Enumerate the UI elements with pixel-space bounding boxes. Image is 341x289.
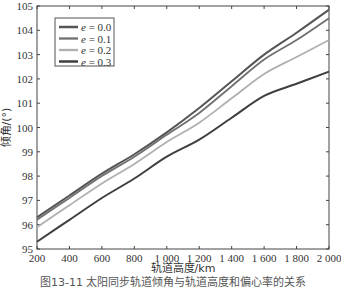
x-tick-label: 1 600 — [252, 252, 277, 264]
y-tick-label: 102 — [17, 73, 34, 85]
y-tick-label: 99 — [22, 146, 34, 158]
x-tick-label: 400 — [61, 252, 78, 264]
x-tick-label: 1 800 — [284, 252, 309, 264]
x-tick-label: 200 — [29, 252, 46, 264]
legend: e = 0.0e = 0.1e = 0.2e = 0.3 — [55, 18, 114, 68]
y-tick-label: 105 — [17, 0, 34, 12]
y-tick-label: 101 — [17, 97, 34, 109]
legend-label: e = 0.1 — [81, 33, 111, 45]
y-tick-label: 103 — [17, 49, 34, 61]
axes: 9596979899100101102103104105200400600800… — [0, 0, 341, 275]
y-tick-label: 104 — [17, 24, 34, 36]
y-axis-title: 倾角/(°) — [0, 108, 13, 148]
series-line — [37, 72, 329, 242]
y-tick-label: 96 — [22, 219, 34, 231]
legend-label: e = 0.3 — [81, 56, 112, 68]
x-tick-label: 2 000 — [317, 252, 341, 264]
legend-label: e = 0.0 — [81, 21, 112, 33]
x-tick-label: 1 400 — [219, 252, 244, 264]
figure-caption: 图13-11 太阳同步轨道倾角与轨道高度和偏心率的关系 — [40, 273, 306, 289]
x-tick-label: 800 — [126, 252, 143, 264]
series-line — [37, 40, 329, 227]
legend-label: e = 0.2 — [81, 44, 111, 56]
y-tick-label: 100 — [17, 122, 34, 134]
y-tick-label: 98 — [22, 170, 34, 182]
y-tick-label: 97 — [22, 194, 34, 206]
x-tick-label: 600 — [94, 252, 111, 264]
